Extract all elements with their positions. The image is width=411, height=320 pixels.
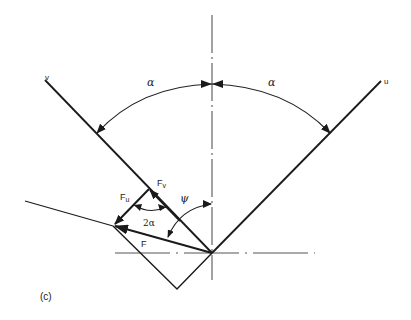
psi-arc (168, 204, 211, 237)
two-alpha-label: 2α (143, 218, 155, 228)
psi-arc-start-arrow (203, 200, 212, 208)
force-Fu-label: Fu (120, 192, 130, 203)
force-Fv-vector (150, 190, 180, 221)
alpha-arc-right-start-arrow (212, 80, 223, 88)
force-Fu-subscript: u (126, 196, 130, 203)
force-F-label: F (141, 239, 147, 249)
v-axis (45, 80, 212, 253)
panel-label: (c) (40, 291, 52, 302)
u-axis-label: u (384, 77, 388, 86)
force-Fv-subscript: v (163, 182, 167, 189)
construction-parallelogram (113, 226, 212, 289)
force-F-vector (115, 226, 212, 253)
v-axis-label: v (45, 73, 49, 82)
force-Fv-label: Fv (157, 178, 167, 189)
force-line-of-action (25, 201, 113, 226)
psi-label: ψ (180, 192, 189, 205)
alpha-arc-right (212, 84, 330, 133)
alpha-label-left: α (147, 76, 155, 89)
alpha-arc-left-start-arrow (201, 80, 212, 88)
two-alpha-arc-left-arrow (134, 204, 142, 211)
force-decomposition-diagram: v u α α Fv Fu 2α ψ F (c) (0, 0, 411, 320)
alpha-arc-left (97, 84, 212, 133)
alpha-label-right: α (268, 76, 276, 89)
